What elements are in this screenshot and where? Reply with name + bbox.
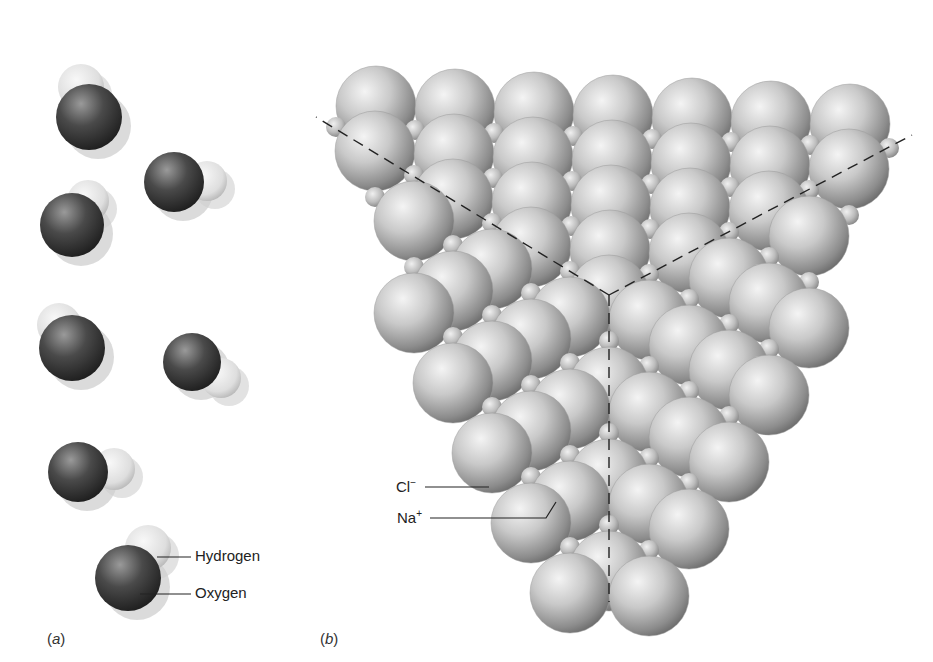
chloride-ion (530, 553, 610, 633)
chloride-ion (374, 273, 454, 353)
water-molecule (48, 442, 143, 511)
chloride-ion (769, 196, 849, 276)
oxygen-atom (95, 545, 161, 611)
sodium-charge: + (416, 508, 422, 519)
chloride-ion (491, 483, 571, 563)
water-molecule (95, 525, 179, 620)
chloride-ion (729, 355, 809, 435)
panel-a-label: (a) (47, 630, 65, 647)
water-molecule (163, 333, 249, 406)
oxygen-atom (56, 84, 122, 150)
chloride-label: Cl− (396, 477, 416, 495)
oxygen-atom (163, 333, 221, 391)
chloride-ion (374, 181, 454, 261)
oxygen-atom (40, 193, 104, 257)
chloride-ion (452, 413, 532, 493)
figure-canvas (0, 0, 933, 662)
chloride-ion (609, 556, 689, 636)
water-molecule (37, 303, 114, 390)
chloride-ion (413, 343, 493, 423)
oxygen-atom (144, 152, 204, 212)
water-molecules-group (37, 64, 249, 620)
chloride-ion (689, 422, 769, 502)
chloride-charge: − (410, 477, 416, 488)
water-molecule (144, 152, 235, 221)
chloride-ion (769, 288, 849, 368)
water-molecule (56, 64, 131, 159)
panel-b-label: (b) (320, 630, 338, 647)
oxygen-atom (39, 315, 105, 381)
label-leader-lines (140, 487, 556, 594)
chloride-ion (335, 111, 415, 191)
chloride-ion (649, 489, 729, 569)
sodium-label: Na+ (397, 508, 422, 526)
water-molecule (40, 180, 117, 266)
oxygen-atom (48, 442, 108, 502)
chloride-symbol: Cl (396, 478, 410, 495)
hydrogen-label: Hydrogen (195, 547, 260, 564)
nacl-crystal-group (326, 66, 899, 636)
sodium-symbol: Na (397, 509, 416, 526)
oxygen-label: Oxygen (195, 584, 247, 601)
